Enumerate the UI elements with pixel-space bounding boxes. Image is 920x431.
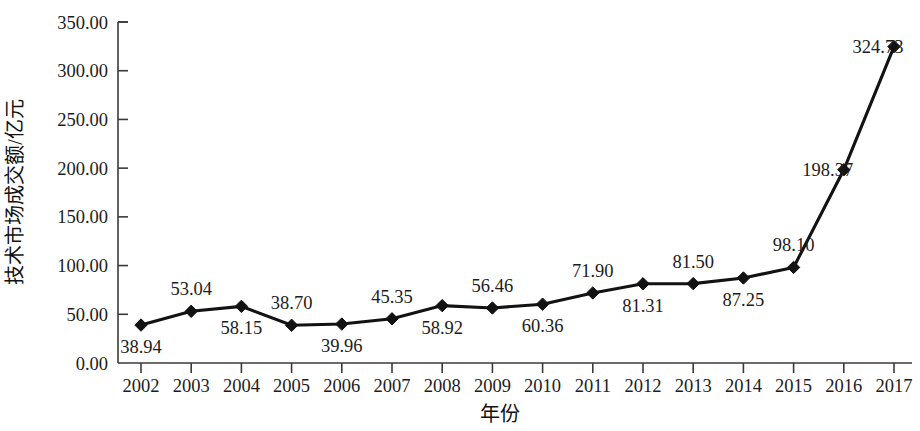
- y-axis-tick-label: 350.00: [57, 13, 108, 33]
- x-axis-tick-label: 2005: [273, 376, 310, 396]
- x-axis-tick-label: 2010: [524, 376, 561, 396]
- y-axis-tick-label: 0.00: [76, 354, 108, 374]
- x-axis-tick-label: 2003: [173, 376, 210, 396]
- data-point-label: 81.50: [672, 252, 714, 272]
- y-axis-tick-label: 50.00: [66, 305, 108, 325]
- data-point-label: 38.94: [120, 337, 162, 357]
- x-axis-tick-label: 2011: [575, 376, 611, 396]
- x-axis-tick-label: 2004: [223, 376, 260, 396]
- data-point-label: 324.73: [853, 37, 904, 57]
- y-axis-tick-label: 150.00: [57, 207, 108, 227]
- data-point-label: 39.96: [321, 336, 363, 356]
- chart-background: [0, 0, 920, 431]
- y-axis-tick-label: 200.00: [57, 159, 108, 179]
- data-point-label: 198.37: [802, 160, 853, 180]
- x-axis-tick-label: 2015: [775, 376, 812, 396]
- y-axis-tick-label: 250.00: [57, 110, 108, 130]
- y-axis-tick-label: 100.00: [57, 256, 108, 276]
- data-point-label: 56.46: [472, 276, 514, 296]
- x-axis-tick-label: 2016: [825, 376, 862, 396]
- data-point-label: 81.31: [622, 296, 664, 316]
- data-point-label: 58.15: [221, 318, 263, 338]
- data-point-label: 45.35: [371, 287, 413, 307]
- line-chart: 0.0050.00100.00150.00200.00250.00300.003…: [0, 0, 920, 431]
- data-point-label: 53.04: [170, 279, 212, 299]
- x-axis-tick-label: 2008: [424, 376, 461, 396]
- data-point-label: 38.70: [271, 293, 313, 313]
- x-axis-tick-label: 2017: [876, 376, 913, 396]
- y-axis-title: 技术市场成交额/亿元: [4, 99, 26, 285]
- y-axis-tick-label: 300.00: [57, 61, 108, 81]
- chart-figure: 0.0050.00100.00150.00200.00250.00300.003…: [0, 0, 920, 431]
- data-point-label: 58.92: [421, 318, 463, 338]
- x-axis-tick-label: 2006: [323, 376, 360, 396]
- x-axis-tick-label: 2014: [725, 376, 762, 396]
- data-point-label: 98.10: [773, 235, 815, 255]
- x-axis-tick-label: 2002: [123, 376, 160, 396]
- x-axis-tick-label: 2009: [474, 376, 511, 396]
- data-point-label: 60.36: [522, 316, 564, 336]
- x-axis-tick-label: 2013: [675, 376, 712, 396]
- x-axis-title: 年份: [480, 403, 520, 425]
- data-point-label: 71.90: [572, 261, 614, 281]
- x-axis-tick-label: 2012: [625, 376, 662, 396]
- data-point-label: 87.25: [723, 290, 765, 310]
- x-axis-tick-label: 2007: [374, 376, 411, 396]
